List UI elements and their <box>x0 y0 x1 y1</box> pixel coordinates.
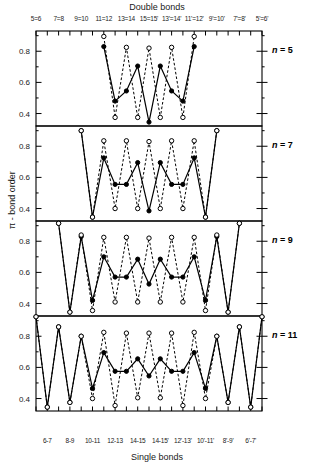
data-point-filled <box>192 156 196 160</box>
data-point-filled <box>136 64 140 68</box>
data-point-open <box>181 206 185 210</box>
data-point-open <box>136 300 140 304</box>
data-point-open <box>102 235 106 239</box>
data-point-filled <box>136 357 140 361</box>
data-point-open <box>102 330 106 334</box>
data-point-open <box>192 139 196 143</box>
data-point-open <box>181 115 185 119</box>
data-point-open <box>113 403 117 407</box>
data-point-open <box>79 334 83 338</box>
data-point-filled <box>192 255 196 259</box>
data-point-filled <box>113 182 117 186</box>
data-point-filled <box>147 209 151 213</box>
data-point-open <box>237 325 241 329</box>
data-point-filled <box>113 275 117 279</box>
panel-frame <box>36 31 262 126</box>
data-point-open <box>215 233 219 237</box>
data-point-open <box>226 310 230 314</box>
data-point-open <box>203 308 207 312</box>
pi-bond-order-figure: Double bonds Single bonds π - bond order… <box>0 0 314 470</box>
data-point-filled <box>147 282 151 286</box>
data-point-open <box>147 46 151 50</box>
data-point-filled <box>124 275 128 279</box>
data-point-open <box>147 236 151 240</box>
data-point-open <box>124 331 128 335</box>
data-point-filled <box>124 182 128 186</box>
data-point-open <box>237 221 241 225</box>
data-point-open <box>158 396 162 400</box>
data-point-filled <box>102 255 106 259</box>
data-point-filled <box>181 275 185 279</box>
data-point-open <box>158 300 162 304</box>
data-point-filled <box>147 374 151 378</box>
data-point-filled <box>102 156 106 160</box>
data-point-filled <box>181 99 185 103</box>
data-series-group <box>34 34 264 409</box>
data-point-open <box>90 215 94 219</box>
data-point-filled <box>170 89 174 93</box>
data-point-open <box>124 235 128 239</box>
plot-canvas <box>0 0 314 470</box>
data-point-filled <box>136 257 140 261</box>
data-point-filled <box>170 275 174 279</box>
data-point-filled <box>181 182 185 186</box>
panel-frame <box>36 316 262 411</box>
data-point-open <box>158 206 162 210</box>
data-point-open <box>147 331 151 335</box>
data-point-open <box>56 221 60 225</box>
series-line-solid <box>36 317 262 407</box>
data-point-open <box>113 206 117 210</box>
data-point-open <box>124 45 128 49</box>
data-point-filled <box>124 369 128 373</box>
data-point-open <box>68 310 72 314</box>
data-point-open <box>181 300 185 304</box>
series-line-solid <box>104 47 194 123</box>
data-point-filled <box>181 369 185 373</box>
data-point-filled <box>124 89 128 93</box>
data-point-filled <box>158 257 162 261</box>
data-point-open <box>181 403 185 407</box>
data-point-filled <box>158 64 162 68</box>
data-point-open <box>102 34 106 38</box>
data-point-open <box>136 396 140 400</box>
data-point-open <box>90 396 94 400</box>
data-point-open <box>260 315 264 319</box>
data-point-filled <box>192 351 196 355</box>
data-point-filled <box>102 351 106 355</box>
data-point-open <box>45 405 49 409</box>
series-line-dashed <box>36 317 262 407</box>
data-point-filled <box>147 120 151 124</box>
data-point-open <box>192 330 196 334</box>
data-point-filled <box>170 369 174 373</box>
data-point-open <box>90 308 94 312</box>
data-point-open <box>113 115 117 119</box>
data-point-filled <box>170 182 174 186</box>
data-point-open <box>215 334 219 338</box>
data-point-filled <box>113 369 117 373</box>
data-point-open <box>147 139 151 143</box>
data-point-open <box>136 206 140 210</box>
data-point-open <box>192 235 196 239</box>
data-point-open <box>226 400 230 404</box>
data-point-open <box>56 325 60 329</box>
data-point-filled <box>158 357 162 361</box>
data-point-open <box>79 128 83 132</box>
panel-frame <box>36 221 262 316</box>
data-point-open <box>192 34 196 38</box>
data-point-open <box>136 115 140 119</box>
data-point-open <box>203 215 207 219</box>
data-point-open <box>169 45 173 49</box>
data-point-open <box>215 128 219 132</box>
data-point-open <box>124 139 128 143</box>
data-point-open <box>169 331 173 335</box>
data-point-open <box>79 233 83 237</box>
panel-frames <box>36 31 262 411</box>
data-point-filled <box>136 161 140 165</box>
data-point-filled <box>158 161 162 165</box>
data-point-open <box>113 300 117 304</box>
data-point-open <box>169 139 173 143</box>
data-point-open <box>68 400 72 404</box>
data-point-open <box>158 115 162 119</box>
data-point-open <box>203 396 207 400</box>
data-point-open <box>249 405 253 409</box>
